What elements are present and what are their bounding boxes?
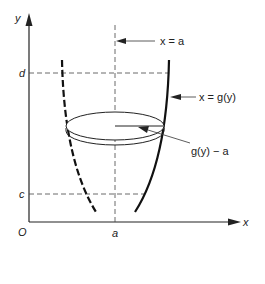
origin-label: O [18, 226, 27, 238]
y-tick-d-label: d [19, 67, 26, 79]
x-axis-label: x [242, 216, 249, 228]
disk-slice [66, 112, 164, 145]
y-axis-arrow-icon [26, 13, 33, 26]
curve-pointer-arrow-icon [170, 94, 181, 100]
y-axis-label: y [14, 12, 22, 24]
x-axis [29, 219, 241, 226]
x-tick-a-label: a [112, 227, 118, 239]
y-tick-c-label: c [19, 188, 25, 200]
radius-label: g(y) − a [191, 145, 229, 157]
solid-of-revolution-diagram: x = a x = g(y) g(y) − a y x O a d c [0, 0, 265, 284]
axis-of-rotation-label: x = a [160, 35, 185, 47]
axis-pointer-arrow-icon [116, 38, 126, 44]
curve-label: x = g(y) [199, 91, 236, 103]
y-axis [26, 13, 33, 222]
x-axis-arrow-icon [228, 219, 241, 226]
